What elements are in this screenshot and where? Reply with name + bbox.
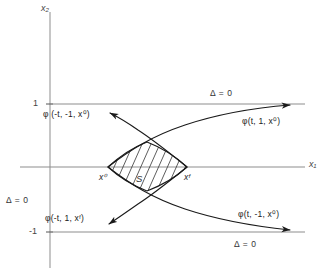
x-axis-label: x₁ [309,160,316,169]
x-axis-label-text: x₁ [309,159,316,169]
y-axis-label-text: x₂ [41,3,49,13]
delta-label-left: Δ = 0 [6,196,29,205]
y-tick-positive-one-text: 1 [33,98,38,108]
point-label-x0: x⁰ [99,173,106,182]
y-tick-label-negative-one: -1 [29,227,37,236]
y-tick-label-positive-one: 1 [33,99,38,108]
region-s-edge-upper-right [147,142,187,167]
trajectory-label-upper-left: φ (-t, -1, x⁰) [43,110,90,119]
trajectory-phi-t-1-x0 [108,105,290,167]
trajectory-label-lower-right-text: φ(t, -1, x⁰) [238,209,279,219]
delta-label-top-text: Δ = 0 [210,88,233,98]
delta-label-bottom-text: Δ = 0 [234,239,257,249]
point-label-xf: xᶠ [184,173,190,182]
trajectory-label-upper-right: φ(t, 1, x⁰) [242,117,280,126]
y-axis-label: x₂ [41,4,49,13]
y-tick-negative-one-text: -1 [29,226,37,236]
region-s-label: S [136,174,142,184]
figure-canvas [0,0,325,279]
axes-group [20,12,305,268]
trajectory-label-lower-left-text: φ(-t, 1, xᶠ) [45,213,84,223]
point-label-x0-text: x⁰ [99,172,106,182]
trajectory-label-upper-left-text: φ (-t, -1, x⁰) [43,109,90,119]
trajectory-label-lower-right: φ(t, -1, x⁰) [238,210,279,219]
trajectory-label-lower-left: φ(-t, 1, xᶠ) [45,214,84,223]
delta-label-left-text: Δ = 0 [6,195,29,205]
delta-label-bottom: Δ = 0 [234,240,257,249]
delta-label-top: Δ = 0 [210,89,233,98]
trajectory-phi-minust-1-xf [109,167,187,224]
phase-plane-figure: x₂ x₁ 1 -1 Δ = 0 Δ = 0 Δ = 0 φ (-t, -1, … [0,0,325,279]
point-label-xf-text: xᶠ [184,172,190,182]
region-s-label-text: S [136,173,142,184]
trajectory-label-upper-right-text: φ(t, 1, x⁰) [242,116,280,126]
